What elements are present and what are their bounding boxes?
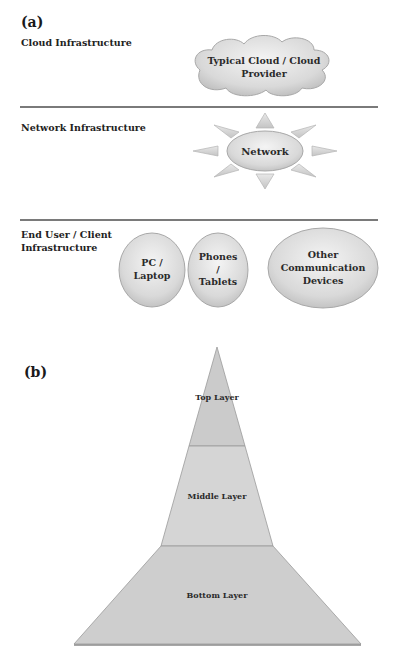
other-devices-node: Other Communication Devices (268, 228, 378, 308)
panel-b-label: (b) (24, 364, 47, 380)
middle-layer-label: Middle Layer (188, 491, 248, 501)
cloud-node-line2: Provider (241, 68, 287, 79)
phones-node-line2: / (216, 264, 220, 275)
other-node-line3: Devices (303, 275, 344, 286)
bottom-layer-label: Bottom Layer (187, 590, 249, 600)
enduser-infrastructure-label-line2: Infrastructure (21, 241, 97, 254)
other-node-line1: Other (308, 249, 340, 260)
cloud-node-line1: Typical Cloud / Cloud (208, 55, 321, 66)
top-layer-label: Top Layer (195, 392, 239, 402)
pc-laptop-node: PC / Laptop (119, 233, 185, 307)
phones-node-line1: Phones (199, 251, 238, 262)
network-node: Network (193, 113, 337, 189)
pyramid: Top Layer Middle Layer Bottom Layer (74, 347, 361, 645)
separator-network-enduser (20, 219, 378, 221)
phones-tablets-node: Phones / Tablets (188, 233, 248, 307)
enduser-infrastructure-label-line1: End User / Client (21, 228, 112, 241)
cloud-provider-node: Typical Cloud / Cloud Provider (195, 35, 329, 95)
pc-node-line2: Laptop (134, 270, 171, 281)
separator-cloud-network (20, 106, 378, 108)
pc-node-line1: PC / (141, 257, 163, 268)
phones-node-line3: Tablets (199, 276, 237, 287)
other-node-line2: Communication (281, 262, 366, 273)
diagram-canvas: Typical Cloud / Cloud Provider Network P… (0, 0, 397, 654)
network-node-label: Network (241, 146, 290, 157)
network-infrastructure-label: Network Infrastructure (21, 121, 146, 134)
